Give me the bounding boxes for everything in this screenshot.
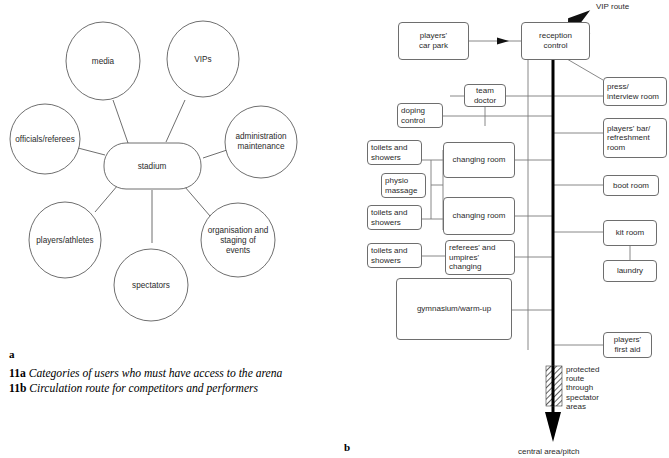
arrow-carpark-to-reception xyxy=(497,38,509,45)
box-doping-control[interactable]: doping control xyxy=(397,103,443,128)
box-referees-umpires-changing-line2: umpires' xyxy=(449,253,479,262)
box-players-car-park-line1: players' xyxy=(420,31,447,40)
box-team-doctor-line1: team xyxy=(476,86,494,95)
box-changing-room-2-label: changing room xyxy=(453,211,506,221)
node-administration-label-1: administration xyxy=(236,132,287,141)
box-players-bar-refreshment-room-line2: refreshment xyxy=(607,133,650,142)
box-players-first-aid[interactable]: players' first aid xyxy=(603,332,652,358)
box-team-doctor-line2: doctor xyxy=(474,96,496,105)
box-players-first-aid-line2: first aid xyxy=(615,345,641,354)
box-press-interview-room-line1: press/ xyxy=(607,82,629,91)
box-toilets-and-showers-2-line1: toilets and xyxy=(371,208,407,217)
node-administration-label-2: maintenance xyxy=(238,142,285,151)
label-protected-route-line1: protected xyxy=(566,365,599,374)
arrow-to-central-area xyxy=(545,412,561,442)
box-toilets-and-showers-3-line1: toilets and xyxy=(371,246,407,255)
box-doping-control-line2: control xyxy=(401,116,425,125)
box-press-interview-room[interactable]: press/ interview room xyxy=(603,77,667,106)
node-organisation-label-2: staging of xyxy=(220,236,256,245)
box-toilets-and-showers-2[interactable]: toilets and showers xyxy=(367,205,422,230)
box-referees-umpires-changing[interactable]: referees' and umpires' changing xyxy=(445,240,515,275)
box-toilets-and-showers-1-line1: toilets and xyxy=(371,143,407,152)
box-changing-room-1-label: changing room xyxy=(453,155,506,165)
node-officials-label: officials/referees xyxy=(15,135,74,144)
caption-11a: 11a Categories of users who must have ac… xyxy=(9,366,339,381)
box-players-car-park[interactable]: players' car park xyxy=(398,22,469,60)
box-gymnasium-warm-up[interactable]: gymnasium/warm-up xyxy=(396,278,512,340)
box-toilets-and-showers-3-line2: showers xyxy=(371,256,401,265)
box-changing-room-2[interactable]: changing room xyxy=(443,197,515,235)
box-laundry[interactable]: laundry xyxy=(603,260,657,282)
box-physio-massage[interactable]: physio massage xyxy=(381,173,426,198)
label-central-area-pitch: central area/pitch xyxy=(518,447,579,457)
box-players-car-park-line2: car park xyxy=(419,41,448,50)
box-players-first-aid-line1: players' xyxy=(614,335,641,344)
node-players-label: players/athletes xyxy=(36,236,93,245)
box-reception-control[interactable]: reception control xyxy=(521,22,590,60)
caption-11b-text: Circulation route for competitors and pe… xyxy=(29,382,258,395)
figure-page: media VIPs officials/referees administra… xyxy=(0,0,669,458)
box-referees-umpires-changing-line3: changing xyxy=(449,262,481,271)
label-protected-route-line5: areas xyxy=(566,402,586,411)
node-vips-label: VIPs xyxy=(194,55,211,64)
box-boot-room-label: boot room xyxy=(613,181,649,191)
link-stadium-media xyxy=(113,100,128,143)
label-protected-route-line2: route xyxy=(566,374,584,383)
caption-11a-number: 11a xyxy=(9,367,26,380)
box-physio-massage-line2: massage xyxy=(385,186,417,195)
diagram-a-user-categories: media VIPs officials/referees administra… xyxy=(0,0,345,345)
box-doping-control-line1: doping xyxy=(401,106,425,115)
box-changing-room-1[interactable]: changing room xyxy=(443,142,515,178)
box-physio-massage-line1: physio xyxy=(385,176,408,185)
link-stadium-organisation xyxy=(185,187,210,216)
link-reception-press xyxy=(567,59,603,80)
box-kit-room-label: kit room xyxy=(616,228,644,238)
caption-11b: 11b Circulation route for competitors an… xyxy=(9,381,339,396)
diagram-b-circulation-route: players' car park reception control team… xyxy=(345,0,669,458)
diagram-a-canvas: media VIPs officials/referees administra… xyxy=(0,0,345,345)
box-laundry-label: laundry xyxy=(617,266,643,276)
node-spectators-label: spectators xyxy=(132,281,170,290)
figure-letter-b: b xyxy=(344,441,350,453)
box-toilets-and-showers-1[interactable]: toilets and showers xyxy=(367,140,422,165)
link-stadium-officials xyxy=(78,148,105,155)
node-media-label: media xyxy=(92,57,115,66)
caption-11b-number: 11b xyxy=(9,382,26,395)
box-boot-room[interactable]: boot room xyxy=(603,175,659,196)
figure-captions: 11a Categories of users who must have ac… xyxy=(9,366,339,396)
label-protected-route: protected route through spectator areas xyxy=(566,365,599,411)
label-vip-route: VIP route xyxy=(596,2,629,12)
box-players-bar-refreshment-room[interactable]: players' bar/ refreshment room xyxy=(603,118,667,158)
box-reception-control-line1: reception xyxy=(539,31,572,40)
box-toilets-and-showers-3[interactable]: toilets and showers xyxy=(367,243,422,268)
link-stadium-administration xyxy=(203,150,227,158)
figure-letter-a: a xyxy=(9,348,15,360)
node-stadium-label: stadium xyxy=(138,162,167,171)
caption-11a-text: Categories of users who must have access… xyxy=(29,367,283,380)
box-players-bar-refreshment-room-line3: room xyxy=(607,143,625,152)
box-toilets-and-showers-2-line2: showers xyxy=(371,218,401,227)
box-reception-control-line2: control xyxy=(543,41,567,50)
box-kit-room[interactable]: kit room xyxy=(603,220,657,246)
node-organisation-label-3: events xyxy=(226,246,250,255)
box-press-interview-room-line2: interview room xyxy=(607,92,659,101)
box-players-bar-refreshment-room-line1: players' bar/ xyxy=(607,124,650,133)
link-stadium-vips xyxy=(166,100,185,142)
label-protected-route-line3: through xyxy=(566,383,593,392)
box-referees-umpires-changing-line1: referees' and xyxy=(449,243,495,252)
box-toilets-and-showers-1-line2: showers xyxy=(371,153,401,162)
box-team-doctor[interactable]: team doctor xyxy=(464,84,506,107)
box-gymnasium-warm-up-label: gymnasium/warm-up xyxy=(417,304,491,314)
link-stadium-players xyxy=(95,185,118,212)
node-organisation-label-1: organisation and xyxy=(208,226,269,235)
label-protected-route-line4: spectator xyxy=(566,393,599,402)
